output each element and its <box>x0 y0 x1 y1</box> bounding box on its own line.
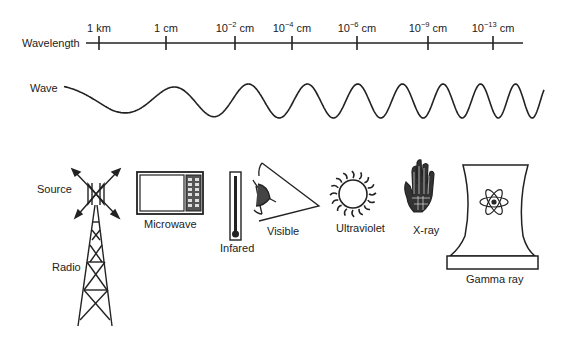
axis-tick-label: 1 cm <box>154 22 178 34</box>
nuclear-cooling-tower-icon <box>447 165 538 269</box>
source-label: Source <box>37 183 72 195</box>
axis-tick-label: 10−2 cm <box>216 20 255 34</box>
wave-label: Wave <box>30 82 58 94</box>
microwave-label: Microwave <box>144 218 197 230</box>
wavelength-label: Wavelength <box>22 37 80 49</box>
gamma-label: Gamma ray <box>466 273 524 285</box>
radio-label: Radio <box>52 261 81 273</box>
axis-tick-label: 10−13 cm <box>472 20 515 34</box>
hand-xray-icon <box>405 160 434 212</box>
wavelength-axis: Wavelength 1 km1 cm10−2 cm10−4 cm10−6 cm… <box>22 20 523 50</box>
axis-tick-label: 1 km <box>87 22 111 34</box>
radio-tower-icon <box>72 169 120 326</box>
wave-curve <box>64 84 544 118</box>
microwave-oven-icon <box>137 172 203 214</box>
axis-tick-label: 10−6 cm <box>338 20 377 34</box>
eye-icon <box>253 163 319 221</box>
em-spectrum-diagram: Wavelength 1 km1 cm10−2 cm10−4 cm10−6 cm… <box>0 0 564 342</box>
axis-tick-label: 10−4 cm <box>273 20 312 34</box>
xray-label: X-ray <box>413 224 440 236</box>
axis-tick-label: 10−9 cm <box>409 20 448 34</box>
ultraviolet-label: Ultraviolet <box>336 222 385 234</box>
sun-icon <box>330 171 376 217</box>
visible-label: Visible <box>267 225 299 237</box>
axis-ticks: 1 km1 cm10−2 cm10−4 cm10−6 cm10−9 cm10−1… <box>87 20 514 50</box>
infrared-label: Infared <box>220 242 254 254</box>
thermometer-icon <box>230 172 241 240</box>
wave-row: Wave <box>30 82 544 118</box>
